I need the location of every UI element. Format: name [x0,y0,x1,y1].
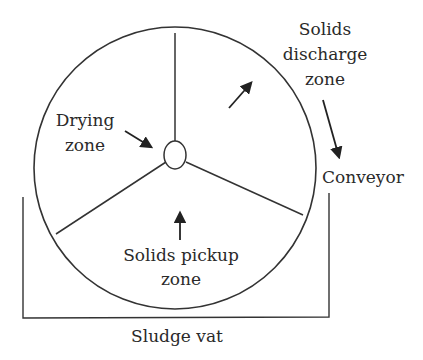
conveyor-label: Conveyor [322,167,405,187]
pickup-label-line1: Solids pickup [123,245,239,265]
sludge-vat-label: Sludge vat [131,326,223,346]
pickup-label-line2: zone [161,269,201,289]
drying-label-line1: Drying [56,110,115,130]
discharge-label-line1: Solids [299,19,351,39]
rotary-drum-diagram: Solids discharge zone Drying zone Convey… [0,0,423,360]
spoke-lower-right [186,162,303,215]
spoke-lower-left [56,162,166,234]
discharge-label-line2: discharge [283,44,368,64]
hub-ellipse [164,141,186,169]
discharge-arrow-icon [323,100,339,157]
rotation-arrow-icon [229,83,251,108]
discharge-label-line3: zone [305,69,345,89]
drying-arrow-icon [125,131,151,147]
drying-label-line2: zone [65,135,105,155]
